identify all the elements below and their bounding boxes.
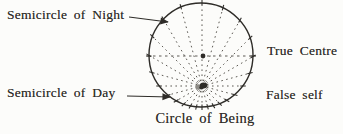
figure-container: Semicircle of Night Semicircle of Day Tr… xyxy=(0,0,343,134)
day-arrow xyxy=(127,96,170,97)
false-self-label: False self xyxy=(266,88,323,103)
caption-label: Circle of Being xyxy=(153,111,257,127)
true-centre-label: True Centre xyxy=(267,44,337,59)
day-label: Semicircle of Day xyxy=(7,86,115,101)
true-centre-dot xyxy=(201,54,206,59)
night-label: Semicircle of Night xyxy=(7,8,124,23)
